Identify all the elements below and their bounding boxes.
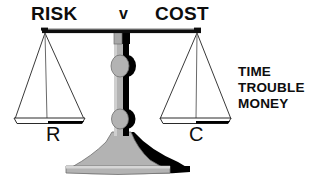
scale-beam — [41, 28, 201, 33]
label-cost: COST — [155, 4, 209, 23]
scale-pan-left — [14, 33, 85, 124]
cost-factor-item: TIME — [238, 64, 305, 80]
balance-scale-diagram: RISK v COST R C TIME TROUBLE MONEY — [0, 0, 313, 180]
scale-pan-left-cord-outer-left — [15, 33, 45, 119]
label-versus: v — [119, 6, 128, 22]
scale-column — [111, 30, 136, 136]
label-pan-right-c: C — [189, 124, 203, 144]
scale-pan-left-cord-outer-right — [45, 33, 84, 119]
scale-pan-right-cord-center — [196, 33, 197, 119]
cost-factors-list: TIME TROUBLE MONEY — [238, 64, 305, 112]
scale-base-plinth-highlight — [66, 166, 170, 169]
scale-pan-right-cord-outer-right — [197, 33, 231, 119]
scale-pan-right-cord-outer-left — [160, 33, 197, 119]
scale-knob-lower — [112, 109, 129, 129]
scale-fulcrum — [114, 32, 122, 44]
scale-beam-cap-left — [41, 28, 48, 31]
scale-pan-right — [160, 33, 231, 124]
scale-knob-upper — [111, 55, 129, 77]
scale-beam-bar — [42, 30, 201, 34]
cost-factor-item: TROUBLE — [238, 80, 305, 96]
scale-beam-top-edge — [42, 29, 201, 30]
scale-base — [66, 132, 190, 175]
scale-beam-cap-right — [194, 28, 201, 31]
label-risk: RISK — [31, 4, 78, 23]
cost-factor-item: MONEY — [238, 96, 305, 112]
scale-pan-left-cord-center — [45, 33, 47, 119]
label-pan-left-r: R — [46, 124, 60, 144]
